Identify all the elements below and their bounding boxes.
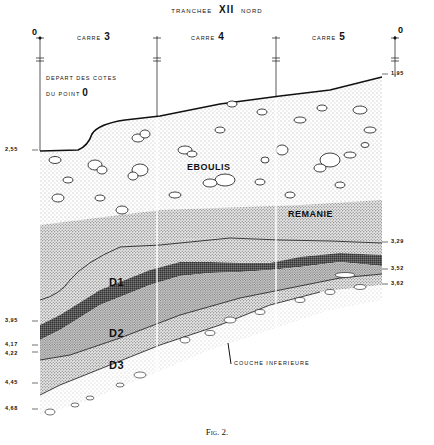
depth-label-4-68: 4,68: [5, 405, 18, 411]
depth-label-4-17: 4,17: [5, 341, 18, 347]
depth-label-3-29: 3,29: [391, 238, 404, 244]
square-number: 3: [104, 31, 110, 42]
square-label-5: CARRE5: [312, 31, 345, 42]
layer-label-remanie: REMANIE: [288, 209, 333, 219]
square-label-text: CARRE: [191, 35, 215, 41]
square-label-4: CARRE4: [191, 31, 224, 42]
square-number: 5: [339, 31, 345, 42]
stratigraphic-section: [0, 0, 434, 445]
depth-label-3-62: 3,62: [391, 280, 404, 286]
datum-note-value: 0: [82, 87, 89, 98]
datum-note-line1: DEPART DES COTES: [46, 75, 117, 81]
couche-inferieure-pointer: [228, 343, 231, 364]
depth-label-4-45: 4,45: [5, 379, 18, 385]
depth-label-3-52: 3,52: [391, 265, 404, 271]
reference-point-left: 0: [32, 27, 37, 37]
depth-label-3-95: 3,95: [5, 317, 18, 323]
square-label-text: CARRE: [312, 35, 336, 41]
layer-label-d2: D2: [109, 327, 124, 339]
depth-label-2-55: 2,55: [5, 146, 18, 152]
square-label-3: CARRE3: [77, 31, 110, 42]
depth-label-4-22: 4,22: [5, 350, 18, 356]
layer-label-d1: D1: [109, 276, 124, 288]
layer-label-d3: D3: [109, 359, 124, 371]
layer-eboulis: [40, 77, 382, 225]
reference-point-right: 0: [398, 25, 403, 35]
depth-label-1-95: 1,95: [391, 70, 404, 76]
square-label-text: CARRE: [77, 35, 101, 41]
square-number: 4: [218, 31, 224, 42]
datum-note-prefix: DU POINT: [46, 91, 80, 97]
figure-caption: Fig. 2.: [0, 427, 434, 437]
layer-label-eboulis: EBOULIS: [187, 162, 231, 172]
datum-note-line2: DU POINT0: [46, 87, 89, 98]
couche-inferieure-label: COUCHE INFERIEURE: [234, 360, 310, 366]
